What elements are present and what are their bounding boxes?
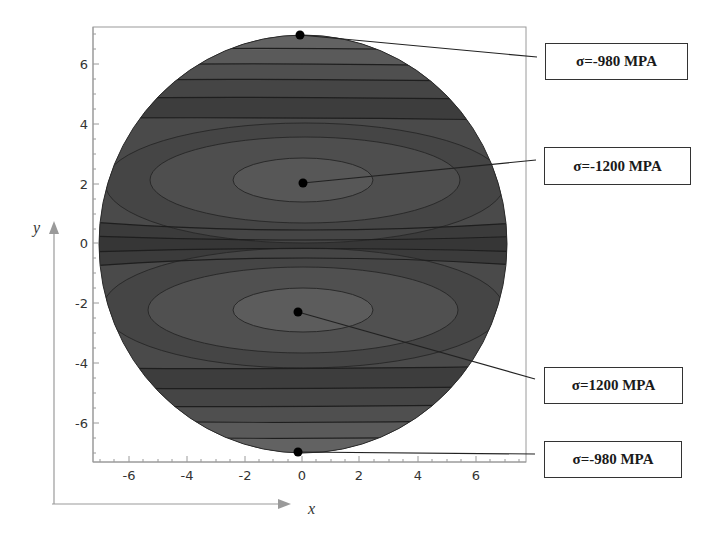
y-axis-label: y [31,219,41,237]
y-tick-label: 4 [80,117,88,132]
marker-bottom-dot-icon [294,448,303,457]
callout-top: σ=-980 MPA [545,43,688,80]
x-tick-label: 0 [298,468,306,483]
y-tick-labels: 6 4 2 0 -2 -4 -6 [75,57,88,431]
x-axis-label: x [307,500,315,517]
marker-top-dot-icon [296,31,305,40]
x-tick-label: -6 [123,468,136,483]
x-tick-label: 6 [472,468,480,483]
y-tick-label: -4 [75,356,88,371]
y-arrow-icon [49,221,59,234]
x-tick-labels: -6 -4 -2 0 2 4 6 [123,468,481,483]
callout-lower-center: σ=1200 MPA [544,367,683,404]
x-arrow-icon [278,499,291,509]
x-tick-label: -2 [239,468,252,483]
marker-lower-dot-icon [294,308,303,317]
callout-upper-center-label: σ=-1200 MPA [573,158,662,175]
lower-ellipse-inner [233,288,373,332]
y-tick-label: -2 [75,296,88,311]
y-tick-label: 6 [80,57,88,72]
x-tick-label: 4 [414,468,422,483]
y-tick-label: -6 [75,416,88,431]
callout-upper-center: σ=-1200 MPA [544,147,691,185]
y-tick-label: 2 [80,177,88,192]
callout-bottom-label: σ=-980 MPA [573,451,654,468]
callout-lower-center-label: σ=1200 MPA [572,377,656,394]
y-tick-label: 0 [80,236,88,251]
x-tick-label: -4 [181,468,194,483]
marker-upper-dot-icon [299,179,308,188]
callout-bottom: σ=-980 MPA [544,441,682,478]
x-tick-label: 2 [355,468,363,483]
callout-top-label: σ=-980 MPA [576,53,657,70]
